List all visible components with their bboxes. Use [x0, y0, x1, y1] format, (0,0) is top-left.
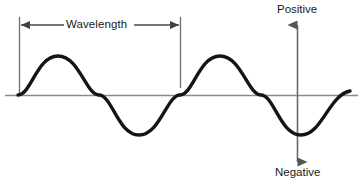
wavelength-label: Wavelength	[66, 18, 127, 31]
wave-diagram-figure: Wavelength Positive Negative	[0, 0, 362, 185]
positive-label: Positive	[277, 3, 317, 16]
negative-label: Negative	[275, 166, 320, 179]
wave-diagram-canvas	[0, 0, 362, 185]
